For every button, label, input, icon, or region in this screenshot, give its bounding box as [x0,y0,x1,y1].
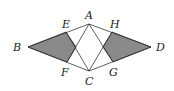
label-G: G [109,66,118,79]
label-F: F [60,66,69,79]
label-C: C [85,75,94,88]
label-E: E [61,18,70,31]
label-D: D [155,41,165,54]
label-A: A [84,9,93,22]
label-H: H [109,18,120,31]
label-B: B [12,41,21,54]
geometry-figure: A B C D E F G H [0,0,174,91]
